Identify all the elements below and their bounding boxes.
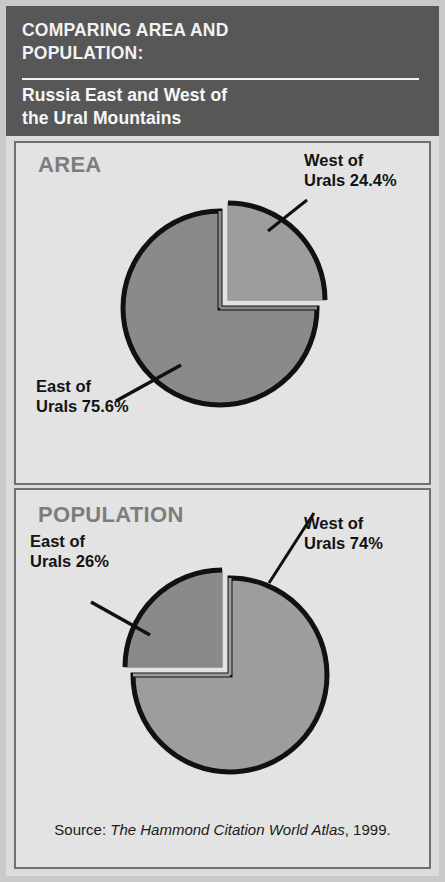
header-banner: COMPARING AREA AND POPULATION: Russia Ea… bbox=[6, 6, 439, 136]
callout-east-area-line1: East of bbox=[36, 377, 129, 397]
callout-west-population: West of Urals 74% bbox=[304, 514, 383, 554]
source-title: The Hammond Citation World Atlas bbox=[110, 821, 345, 838]
callout-west-population-line2: Urals 74% bbox=[304, 534, 383, 554]
header-divider bbox=[22, 78, 419, 80]
header-title-caps: COMPARING AREA AND POPULATION: bbox=[22, 19, 423, 65]
infographic-figure: COMPARING AREA AND POPULATION: Russia Ea… bbox=[0, 0, 445, 882]
callout-west-area-line1: West of bbox=[304, 151, 397, 171]
header-title-line2: POPULATION: bbox=[22, 42, 423, 65]
callout-west-population-line1: West of bbox=[304, 514, 383, 534]
source-suffix: , 1999. bbox=[345, 821, 391, 838]
header-subtitle-line1: Russia East and West of bbox=[22, 84, 422, 107]
callout-east-population-line1: East of bbox=[30, 532, 109, 552]
callout-west-area-line2: Urals 24.4% bbox=[304, 171, 397, 191]
callout-east-population-line2: Urals 26% bbox=[30, 552, 109, 572]
callout-east-area-line2: Urals 75.6% bbox=[36, 397, 129, 417]
header-title-line1: COMPARING AREA AND bbox=[22, 19, 423, 42]
chart-panel-area: AREA West of Urals 24.4% East of Urals 7… bbox=[14, 141, 431, 485]
source-prefix: Source: bbox=[54, 821, 110, 838]
callout-east-population: East of Urals 26% bbox=[30, 532, 109, 572]
source-note: Source: The Hammond Citation World Atlas… bbox=[16, 821, 429, 838]
header-subtitle: Russia East and West of the Ural Mountai… bbox=[22, 84, 422, 130]
callout-east-area: East of Urals 75.6% bbox=[36, 377, 129, 417]
callout-west-area: West of Urals 24.4% bbox=[304, 151, 397, 191]
pie-chart-area bbox=[16, 143, 429, 483]
chart-panel-population: POPULATION West of Urals 74% East of Ura… bbox=[14, 488, 431, 869]
header-subtitle-line2: the Ural Mountains bbox=[22, 107, 422, 130]
